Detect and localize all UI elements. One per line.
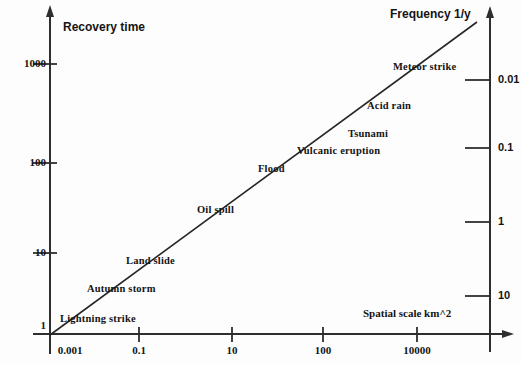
y-right-tick-label-0-1: 0.1 [498,142,513,154]
y-left-tick-label-10: 10 [0,247,46,259]
x-tick-label-100: 100 [283,345,363,357]
event-label-lightning-strike: Lightning strike [60,313,136,324]
event-label-vulcanic-eruption: Vulcanic eruption [297,145,380,156]
y-left-tick-label-1: 1 [0,320,46,332]
event-label-meteor-strike: Meteor strike [393,61,456,72]
y-left-tick-label-100: 100 [0,157,46,169]
event-label-land-slide: Land slide [126,255,175,266]
x-tick-label-10: 10 [192,345,272,357]
event-label-oil-spill: Oil spill [197,204,234,215]
y-left-tick-label-1000: 1000 [0,58,46,70]
event-label-acid-rain: Acid rain [367,100,411,111]
x-tick-label-10000: 10000 [377,345,457,357]
x-tick-label-0-001: 0.001 [30,345,110,357]
tick-marks-group [33,64,490,342]
event-label-flood: Flood [258,163,285,174]
y-right-tick-label-1: 1 [498,216,504,228]
y-right-tick-label-0-01: 0.01 [498,74,519,86]
x-axis-title: Spatial scale km^2 [363,308,451,320]
y-left-axis-title: Recovery time [63,21,145,34]
event-label-tsunami: Tsunami [348,128,388,139]
x-tick-label-0-1: 0.1 [99,345,179,357]
y-left-axis-arrow-icon [46,5,54,17]
y-right-axis-title: Frequency 1/y [390,8,471,21]
disaster-scale-chart: Recovery time Frequency 1/y Spatial scal… [0,0,521,365]
y-right-tick-label-10: 10 [498,290,510,302]
y-right-axis-arrow-icon [486,6,494,18]
event-label-autumn-storm: Autumn storm [87,283,156,294]
x-axis-arrow-icon [502,330,514,338]
